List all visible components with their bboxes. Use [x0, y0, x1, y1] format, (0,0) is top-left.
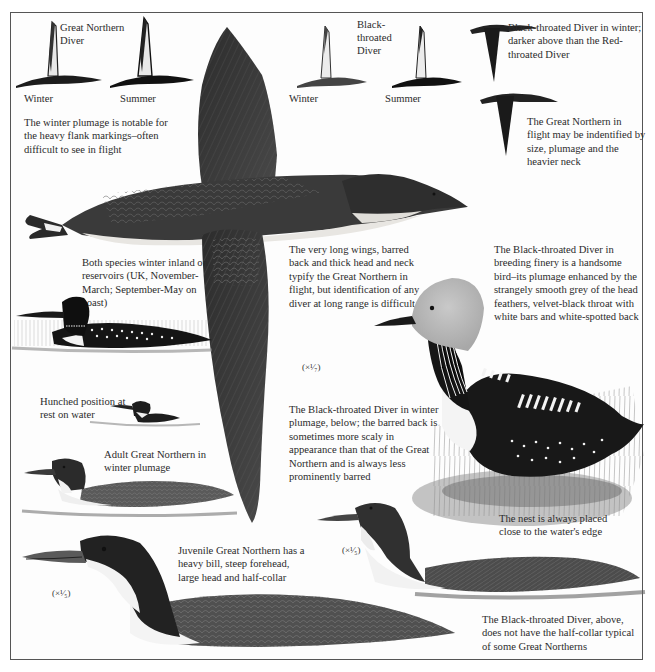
- juvenile-scale-label: (×¹⁄₅): [52, 588, 70, 598]
- flight-scale-label: (×¹⁄₇): [302, 362, 320, 372]
- no-half-collar-caption: The Black-throated Diver, above, does no…: [482, 613, 642, 653]
- breeding-finery-caption: The Black-throated Diver in breeding fin…: [494, 243, 644, 323]
- hunched-diver-illustration: [90, 398, 200, 430]
- great-northern-flight-caption: The Great Northern in flight may be inde…: [527, 115, 647, 169]
- great-northern-summer-swimming-illustration: [12, 292, 212, 367]
- black-throated-winter-caption: Black-throated Diver in winter; darker a…: [508, 21, 648, 61]
- adult-great-northern-winter-illustration: [22, 455, 237, 530]
- black-throated-winter-plumage-caption: The Black-throated Diver in winter pluma…: [289, 403, 444, 483]
- juvenile-caption: Juvenile Great Northern has a heavy bill…: [178, 544, 308, 584]
